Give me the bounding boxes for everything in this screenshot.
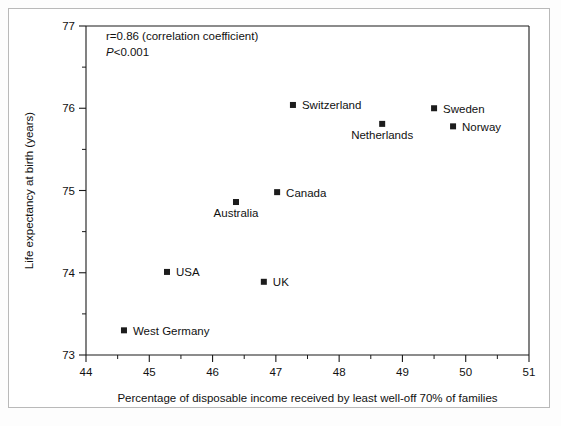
x-tick-label: 48 bbox=[333, 366, 346, 378]
point-label: Australia bbox=[214, 207, 259, 219]
y-tick-label: 73 bbox=[62, 349, 75, 361]
x-tick-label: 44 bbox=[80, 366, 93, 378]
point-label: West Germany bbox=[133, 325, 210, 337]
point-marker[interactable] bbox=[164, 269, 170, 275]
point-label: USA bbox=[176, 266, 200, 278]
data-point[interactable]: Sweden bbox=[431, 103, 485, 115]
point-label: Switzerland bbox=[302, 99, 361, 111]
data-point[interactable]: Canada bbox=[274, 187, 327, 199]
x-tick-label: 51 bbox=[523, 366, 536, 378]
p-value-annotation: P<0.001 bbox=[106, 46, 149, 58]
x-axis-title: Percentage of disposable income received… bbox=[117, 392, 497, 404]
data-point[interactable]: Australia bbox=[214, 199, 259, 219]
data-points-group: SwitzerlandSwedenNorwayNetherlandsCanada… bbox=[121, 99, 501, 336]
point-label: Sweden bbox=[443, 103, 485, 115]
point-marker[interactable] bbox=[274, 189, 280, 195]
data-point[interactable]: Norway bbox=[450, 121, 501, 133]
point-marker[interactable] bbox=[431, 105, 437, 111]
x-tick-label: 49 bbox=[396, 366, 409, 378]
data-point[interactable]: Switzerland bbox=[290, 99, 361, 111]
point-marker[interactable] bbox=[233, 199, 239, 205]
data-point[interactable]: West Germany bbox=[121, 325, 210, 337]
y-tick-label: 77 bbox=[62, 20, 75, 32]
x-tick-label: 50 bbox=[459, 366, 472, 378]
y-tick-label: 76 bbox=[62, 102, 75, 114]
data-point[interactable]: UK bbox=[261, 276, 289, 288]
annotations-group: r=0.86 (correlation coefficient)P<0.001 bbox=[106, 30, 258, 58]
x-tick-label: 47 bbox=[269, 366, 282, 378]
x-tick-label: 46 bbox=[206, 366, 219, 378]
point-label: Canada bbox=[286, 187, 327, 199]
point-label: UK bbox=[273, 276, 289, 288]
data-point[interactable]: USA bbox=[164, 266, 200, 278]
point-marker[interactable] bbox=[261, 279, 267, 285]
point-marker[interactable] bbox=[379, 121, 385, 127]
x-tick-label: 45 bbox=[143, 366, 156, 378]
axis-titles-group: Percentage of disposable income received… bbox=[23, 112, 498, 404]
scatter-plot: 73747576774445464748495051 SwitzerlandSw… bbox=[0, 0, 561, 426]
figure-root: 73747576774445464748495051 SwitzerlandSw… bbox=[0, 0, 561, 426]
y-tick-label: 75 bbox=[62, 185, 75, 197]
y-tick-label: 74 bbox=[62, 267, 75, 279]
data-point[interactable]: Netherlands bbox=[351, 121, 413, 141]
p-value-threshold: <0.001 bbox=[114, 46, 150, 58]
point-marker[interactable] bbox=[450, 123, 456, 129]
y-axis-title: Life expectancy at birth (years) bbox=[23, 112, 35, 269]
point-label: Norway bbox=[462, 121, 501, 133]
point-marker[interactable] bbox=[290, 102, 296, 108]
point-marker[interactable] bbox=[121, 327, 127, 333]
correlation-annotation: r=0.86 (correlation coefficient) bbox=[106, 30, 258, 42]
point-label: Netherlands bbox=[351, 129, 413, 141]
